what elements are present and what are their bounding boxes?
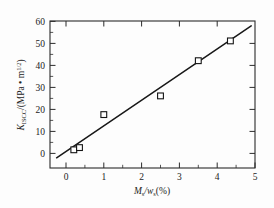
y-axis-title: KISCC/(MPa • m1/2) xyxy=(15,59,27,131)
data-point-2 xyxy=(77,145,83,151)
y-tick-label-20: 20 xyxy=(36,105,46,115)
y-tick-label-0: 0 xyxy=(40,149,45,159)
y-axis-right-ticks xyxy=(250,43,256,153)
data-point-3 xyxy=(101,112,107,118)
linear-fit-line xyxy=(57,26,252,158)
x-axis-top-ticks xyxy=(66,21,217,27)
y-axis-major-ticks xyxy=(50,21,56,153)
x-axis-title: Ms/ws(%) xyxy=(133,186,170,197)
data-point-4 xyxy=(158,93,164,99)
x-tick-label-0: 0 xyxy=(64,172,69,182)
x-tick-label-5: 5 xyxy=(253,172,258,182)
x-tick-label-3: 3 xyxy=(177,172,182,182)
y-tick-label-50: 50 xyxy=(36,39,46,49)
data-point-1 xyxy=(71,147,77,153)
scatter-plot: 60 50 40 30 20 10 0 0 1 2 3 4 5 KISCC/(M… xyxy=(0,0,274,208)
y-axis-close-paren: ) xyxy=(16,59,27,62)
data-point-5 xyxy=(195,58,201,64)
y-axis-units: /(MPa • m xyxy=(16,70,27,110)
y-axis-exponent: 1/2 xyxy=(15,63,22,71)
y-tick-label-30: 30 xyxy=(36,83,46,93)
y-axis-subscript: ISCC xyxy=(20,110,27,124)
x-tick-label-1: 1 xyxy=(101,172,106,182)
figure-container: 60 50 40 30 20 10 0 0 1 2 3 4 5 KISCC/(M… xyxy=(0,0,274,208)
y-tick-label-40: 40 xyxy=(36,61,46,71)
x-tick-label-4: 4 xyxy=(215,172,220,182)
x-tick-label-2: 2 xyxy=(139,172,144,182)
data-point-6 xyxy=(228,38,234,44)
x-axis-unit: (%) xyxy=(156,186,170,197)
y-tick-label-10: 10 xyxy=(36,127,46,137)
y-tick-label-60: 60 xyxy=(36,17,46,27)
